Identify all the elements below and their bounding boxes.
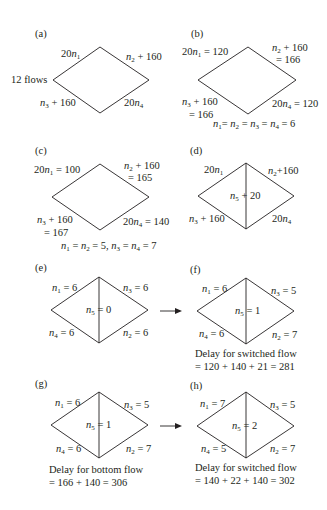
edge-bottom-left: n3 + 160 (40, 97, 76, 109)
edge-top-right: n2 + 160 (272, 42, 308, 54)
panel-label: (g) (35, 378, 47, 390)
edge-top-left: n1 = 7 (200, 398, 225, 410)
edge-bottom-right: n2 = 6 (123, 327, 148, 339)
panel-label: (d) (190, 145, 202, 157)
edge-middle: n5 = 2 (232, 420, 257, 432)
edge-top-right: n2+160 (268, 165, 298, 177)
caption-line-1: Delay for bottom flow (49, 464, 143, 476)
caption-line-2: = 120 + 140 + 21 = 281 (195, 361, 295, 373)
caption-line-2: = 140 + 22 + 140 = 302 (195, 475, 295, 487)
edge-bottom-right: 20n4 = 120 (272, 98, 318, 110)
flows-note: 12 flows (11, 74, 47, 86)
panel-label: (c) (35, 145, 47, 157)
edge-bottom-left: n3 + 160 (182, 96, 218, 108)
edge-top-right: n3 = 6 (123, 282, 148, 294)
edge-middle: n5 + 20 (230, 190, 260, 202)
caption-line-1: Delay for switched flow (195, 348, 297, 360)
edge-top-left: n1 = 6 (52, 282, 77, 294)
edge-top-right: n2 + 160 (126, 51, 162, 63)
edge-top-right: n2 + 160 (124, 160, 160, 172)
network-diagrams (0, 0, 327, 510)
edge-bottom-right: 20n4 (272, 213, 291, 225)
edge-top-left: 20n1 (204, 164, 223, 176)
edge-top-right: n3 = 5 (271, 285, 296, 297)
edge-bottom-left: n3 + 160 (189, 213, 225, 225)
edge-bottom-right: n2 = 7 (272, 329, 297, 341)
edge-top-right-value: = 165 (128, 172, 152, 184)
edge-bottom-left: n4 = 6 (199, 328, 224, 340)
edge-bottom-left-value: = 166 (189, 109, 213, 121)
edge-bottom-right: n2 = 7 (270, 443, 295, 455)
edge-top-left: n1 = 6 (202, 283, 227, 295)
panel-label: (e) (35, 262, 47, 274)
edge-bottom-right: 20n4 = 140 (123, 216, 169, 228)
edge-top-left: 20n1 = 120 (182, 46, 228, 58)
arrowhead-icon (175, 423, 182, 429)
edge-bottom-left-value: = 167 (44, 227, 68, 239)
edge-middle: n5 = 1 (86, 419, 111, 431)
panel-label: (h) (190, 380, 202, 392)
edge-top-left: 20n1 (61, 48, 80, 60)
edge-bottom-right: 20n4 (124, 97, 143, 109)
edge-top-left: 20n1 = 100 (34, 164, 80, 176)
edge-middle: n5 = 0 (86, 304, 111, 316)
panel-label: (a) (35, 28, 47, 40)
panel-label: (b) (191, 28, 203, 40)
edge-top-right: n3 = 5 (270, 399, 295, 411)
caption-line-2: = 166 + 140 = 306 (49, 477, 127, 489)
edge-bottom-right: n2 = 7 (126, 443, 151, 455)
edge-bottom-left: n4 = 6 (49, 327, 74, 339)
caption-line-1: Delay for switched flow (195, 462, 297, 474)
edge-top-right-value: = 166 (276, 54, 300, 66)
panel-caption: n1 = n2 = 5, n3 = n4 = 7 (61, 240, 156, 252)
panel-label: (f) (190, 264, 201, 276)
edge-top-left: n1 = 6 (55, 397, 80, 409)
panel-caption: n1= n2 = n3 = n4 = 6 (213, 118, 295, 130)
edge-bottom-left: n4 = 5 (201, 443, 226, 455)
edge-bottom-left: n4 = 6 (56, 443, 81, 455)
edge-top-right: n3 = 5 (124, 399, 149, 411)
edge-bottom-left: n3 + 160 (37, 214, 73, 226)
edge-middle: n5 = 1 (235, 305, 260, 317)
arrowhead-icon (175, 308, 182, 314)
